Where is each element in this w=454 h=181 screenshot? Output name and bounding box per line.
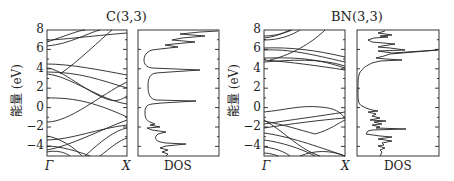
c33-dos-frame xyxy=(138,30,219,156)
c33-ytick-2: 2 xyxy=(22,80,44,94)
c33-band-frame xyxy=(47,30,127,156)
bn33-chart-title: BN(3,3) xyxy=(331,9,383,24)
bn33-ytick-8: 8 xyxy=(239,22,261,36)
bn33-ytick-6: 6 xyxy=(239,41,261,55)
c33-y-axis-label: 能量 (eV) xyxy=(7,56,24,126)
bn33-ytick-0: 0 xyxy=(239,100,261,114)
c33-x-label-gamma: Γ xyxy=(45,159,53,173)
c33-chart-title: C(3,3) xyxy=(106,9,147,24)
c33-ytick-neg2: −2 xyxy=(22,119,44,133)
bn33-band-frame xyxy=(264,30,345,156)
c33-ytick-6: 6 xyxy=(22,41,44,55)
bn33-ytick-4: 4 xyxy=(239,61,261,75)
bn33-dos-label: DOS xyxy=(384,159,412,173)
bn33-ytick-2: 2 xyxy=(239,80,261,94)
bn33-x-label-gamma: Γ xyxy=(262,159,270,173)
c33-ytick-0: 0 xyxy=(22,100,44,114)
bn33-ytick-neg2: −2 xyxy=(239,119,261,133)
c33-dos-label: DOS xyxy=(164,159,192,173)
c33-ytick-neg4: −4 xyxy=(22,138,44,152)
c33-ytick-8: 8 xyxy=(22,22,44,36)
bn33-y-axis-label: 能量 (eV) xyxy=(224,56,241,126)
bn33-ytick-neg4: −4 xyxy=(239,138,261,152)
c33-x-label-x: X xyxy=(122,159,131,173)
bn33-x-label-x: X xyxy=(341,159,350,173)
c33-ytick-4: 4 xyxy=(22,61,44,75)
